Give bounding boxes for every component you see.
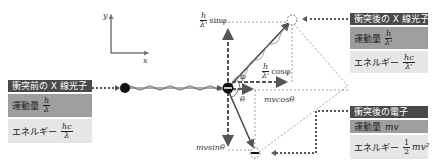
incident-photon-box: 衝突前の X 線光子 運動量 hλ エネルギー hcλ xyxy=(8,80,92,143)
incident-momentum-row: 運動量 hλ xyxy=(8,94,92,117)
x-axis-label: x xyxy=(143,56,148,65)
electron-before-icon xyxy=(223,83,234,94)
scattered-energy-row: エネルギー hcλ' xyxy=(350,51,428,73)
label-sin-phi: hλ' sinφ xyxy=(200,12,227,29)
label-mv-sin: mvsinθ xyxy=(196,143,225,152)
label-theta: θ xyxy=(240,95,245,104)
scattered-photon-box: 衝突後の X 線光子 運動量 hλ' エネルギー hcλ' xyxy=(350,13,428,73)
recoil-electron-box: 衝突後の電子 運動量 mv エネルギー 12 mv² xyxy=(350,106,428,159)
scattered-photon-title: 衝突後の X 線光子 xyxy=(350,13,428,25)
electron-energy-row: エネルギー 12 mv² xyxy=(350,135,428,159)
label-mv-cos: mvcosθ xyxy=(264,95,294,104)
label-cos-phi: hλ' cosφ xyxy=(262,63,290,80)
connector-electron xyxy=(276,111,348,153)
electron-after-icon xyxy=(250,148,260,158)
y-axis-label: y xyxy=(103,11,108,20)
scattered-photon-icon xyxy=(287,15,297,25)
recoil-electron-title: 衝突後の電子 xyxy=(350,106,428,118)
incident-photon-icon xyxy=(120,83,130,93)
axes-icon xyxy=(111,15,148,53)
electron-momentum-row: 運動量 mv xyxy=(350,120,428,133)
label-phi: φ xyxy=(240,72,246,81)
incident-energy-row: エネルギー hcλ xyxy=(8,119,92,143)
scattered-momentum-row: 運動量 hλ' xyxy=(350,27,428,49)
incident-photon-title: 衝突前の X 線光子 xyxy=(8,80,92,92)
